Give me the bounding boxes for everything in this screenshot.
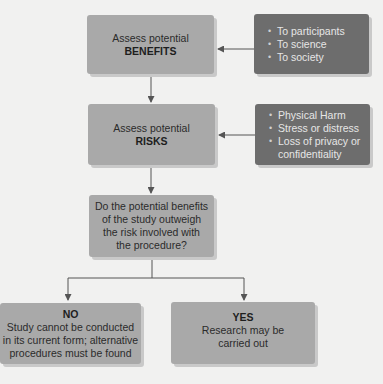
- question-line: of the study outweigh: [102, 213, 201, 226]
- benefits-list: To participants To science To society: [268, 25, 345, 64]
- list-item: Physical Harm: [269, 109, 360, 122]
- no-title: NO: [63, 308, 79, 321]
- no-line: in its current form; alternative: [3, 334, 138, 347]
- list-item: To participants: [268, 25, 345, 38]
- list-item: To society: [268, 51, 345, 64]
- yes-line: carried out: [218, 337, 268, 350]
- risks-box: Assess potential RISKS: [88, 104, 215, 165]
- list-item: To science: [268, 38, 345, 51]
- question-box: Do the potential benefits of the study o…: [89, 195, 214, 257]
- benefits-title: BENEFITS: [125, 45, 177, 58]
- list-item: Stress or distress: [269, 122, 360, 135]
- no-box: NO Study cannot be conducted in its curr…: [0, 303, 141, 364]
- benefits-label: Assess potential: [112, 32, 188, 45]
- no-line: Study cannot be conducted: [7, 321, 134, 334]
- risks-list: Physical Harm Stress or distress Loss of…: [269, 109, 360, 161]
- question-line: the risk involved with: [103, 226, 200, 239]
- benefits-list-box: To participants To science To society: [254, 14, 369, 74]
- yes-title: YES: [232, 311, 253, 324]
- risks-list-box: Physical Harm Stress or distress Loss of…: [255, 104, 370, 165]
- question-line: the procedure?: [116, 239, 187, 252]
- risks-title: RISKS: [135, 135, 167, 148]
- no-line: procedures must be found: [10, 347, 132, 360]
- question-line: Do the potential benefits: [95, 200, 208, 213]
- yes-line: Research may be: [202, 324, 284, 337]
- benefits-box: Assess potential BENEFITS: [87, 15, 214, 74]
- list-item: confidentiality: [269, 148, 360, 161]
- list-item: Loss of privacy or: [269, 135, 360, 148]
- yes-box: YES Research may be carried out: [171, 302, 315, 364]
- risks-label: Assess potential: [113, 122, 189, 135]
